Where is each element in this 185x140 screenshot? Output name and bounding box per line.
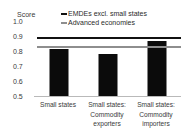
x-axis-labels: Small states Small states: Commodity exp… [34, 100, 181, 138]
x-axis-baseline [34, 96, 181, 97]
legend-item-emdes: EMDEs excl. small states [61, 9, 147, 18]
x-axis-label-line: Small states: [80, 100, 134, 110]
bar-slot-commodity-importers [132, 22, 181, 97]
legend-label-emdes: EMDEs excl. small states [68, 9, 147, 18]
x-axis-label-line: Small states: [129, 100, 183, 110]
y-axis-tick-0.5: 0.5 [13, 93, 32, 101]
x-axis-label-commodity-exporters: Small states: Commodity exporters [80, 100, 134, 129]
bar-commodity-importers [147, 41, 166, 97]
y-axis-tick-0.6: 0.6 [13, 78, 32, 86]
x-axis-label-small-states: Small states [31, 100, 85, 110]
reference-line-advanced-economies [37, 46, 181, 48]
x-axis-label-line: importers [129, 119, 183, 129]
legend-line-marker-emdes-icon [61, 13, 67, 15]
bar-slot-commodity-exporters [83, 22, 132, 97]
reference-line-emdes-excl-small-states [37, 37, 181, 39]
bar-slot-small-states [34, 22, 83, 97]
bar-chart: Score 1.0 0.9 0.8 0.7 0.6 0.5 EMDEs excl… [0, 0, 185, 140]
y-axis-tick-1.0: 1.0 [13, 18, 32, 26]
y-axis-tick-0.7: 0.7 [13, 63, 32, 71]
x-axis-label-line: Commodity [129, 110, 183, 120]
x-axis-label-commodity-importers: Small states: Commodity importers [129, 100, 183, 129]
plot-area [34, 22, 181, 97]
x-axis-label-line: Small states [31, 100, 85, 110]
y-axis-tick-0.9: 0.9 [13, 33, 32, 41]
bar-group [34, 22, 181, 97]
bar-commodity-exporters [98, 54, 117, 97]
x-axis-label-line: exporters [80, 119, 134, 129]
bar-small-states [49, 49, 68, 97]
y-axis-tick-0.8: 0.8 [13, 48, 32, 56]
x-axis-label-line: Commodity [80, 110, 134, 120]
